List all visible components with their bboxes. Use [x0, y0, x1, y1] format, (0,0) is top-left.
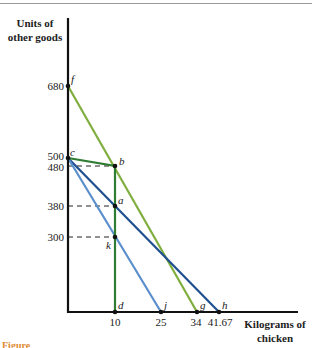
points — [66, 84, 222, 315]
point-label-b: b — [119, 155, 125, 167]
line-c-h — [68, 158, 219, 312]
y-tick-300: 300 — [48, 231, 65, 243]
y-tick-380: 380 — [48, 200, 65, 212]
x-axis-label-line1: Kilograms of — [238, 317, 312, 331]
x-tick-41-67: 41.67 — [208, 316, 233, 328]
point-label-f: f — [71, 73, 76, 85]
point-label-a: a — [118, 194, 124, 206]
point-label-c: c — [70, 146, 75, 158]
point-label-j: j — [162, 299, 167, 311]
x-tick-10: 10 — [110, 316, 122, 328]
point-label-g: g — [200, 299, 206, 311]
point-label-d: d — [118, 299, 124, 311]
point-label-h: h — [222, 299, 228, 311]
line-f-g — [68, 86, 197, 312]
x-tick-25: 25 — [156, 316, 168, 328]
y-tick-680: 680 — [48, 80, 65, 92]
x-axis-label: Kilograms of chicken — [238, 317, 312, 345]
x-tick-34: 34 — [191, 316, 203, 328]
chart-canvas: f c b a k d j g h 680 500 480 380 300 10… — [0, 0, 312, 348]
figure-caption: Figure — [2, 340, 42, 348]
y-tick-480: 480 — [48, 161, 65, 173]
point-label-k: k — [106, 239, 112, 251]
x-axis-label-line2: chicken — [238, 331, 312, 345]
dashed-guides — [68, 166, 115, 237]
